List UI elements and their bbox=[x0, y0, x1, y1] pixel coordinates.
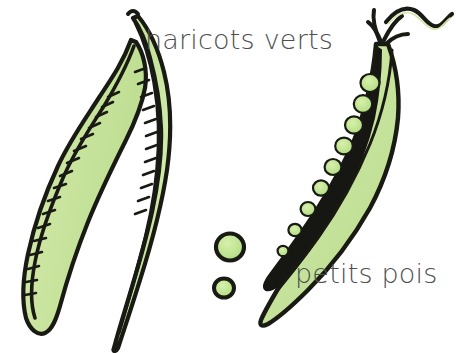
green-bean-left bbox=[23, 40, 146, 334]
pod-pea-6 bbox=[313, 180, 329, 195]
bean-stem-joint bbox=[128, 11, 138, 14]
label-petits-pois: petits pois bbox=[295, 258, 438, 289]
pod-pea-4 bbox=[335, 138, 353, 155]
label-haricots-verts: haricots verts bbox=[145, 24, 333, 55]
loose-peas bbox=[214, 234, 244, 298]
pod-pea-5 bbox=[325, 159, 342, 175]
pod-pea-1 bbox=[361, 74, 380, 92]
pod-pea-7 bbox=[301, 202, 316, 216]
pod-pea-2 bbox=[354, 95, 372, 113]
illustration-canvas: haricots verts petits pois bbox=[0, 0, 456, 353]
pod-pea-8 bbox=[288, 224, 301, 236]
loose-pea-small bbox=[214, 279, 234, 298]
pod-pea-9 bbox=[278, 246, 289, 256]
pod-pea-3 bbox=[345, 116, 363, 133]
pea-pod-sepals bbox=[368, 10, 408, 44]
loose-pea-large bbox=[216, 234, 244, 261]
bean-left-body bbox=[23, 40, 146, 334]
